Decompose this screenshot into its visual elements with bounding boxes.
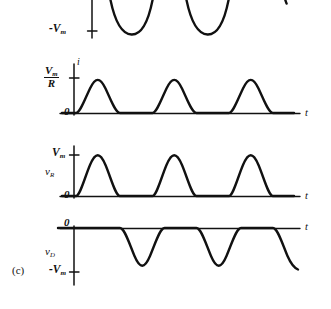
diode-voltage-ytick-label: -Vm <box>49 264 66 277</box>
source-voltage-trough-2 <box>185 0 230 35</box>
resistor-voltage-x-axis-label: t <box>305 191 308 202</box>
diode-voltage-origin-label: 0 <box>64 217 70 228</box>
diode-voltage-waveform <box>58 228 298 270</box>
source-voltage-trough-1 <box>109 0 154 35</box>
current-waveform <box>62 80 294 113</box>
current-y-axis-label: i <box>77 57 80 67</box>
diode-voltage-x-axis-label: t <box>305 222 308 233</box>
rectifier-waveform-figure: -Vm i Vm R 0 t vR Vm 0 t 0 vD -Vm t (c) <box>0 0 331 309</box>
diode-voltage-y-axis-label: vD <box>45 246 55 258</box>
resistor-voltage-origin-label: 0 <box>64 189 70 200</box>
resistor-voltage-ytick-label: Vm <box>52 147 65 160</box>
current-origin-label: 0 <box>64 106 70 117</box>
resistor-voltage-waveform <box>62 155 294 196</box>
current-ytick-label: Vm R <box>44 65 59 90</box>
figure-caption-label: (c) <box>12 265 24 276</box>
resistor-voltage-y-axis-label: vR <box>45 166 54 178</box>
source-voltage-trough-3-fragment <box>283 0 287 4</box>
current-x-axis-label: t <box>305 108 308 119</box>
source-voltage-ytick-label: -Vm <box>49 23 66 36</box>
